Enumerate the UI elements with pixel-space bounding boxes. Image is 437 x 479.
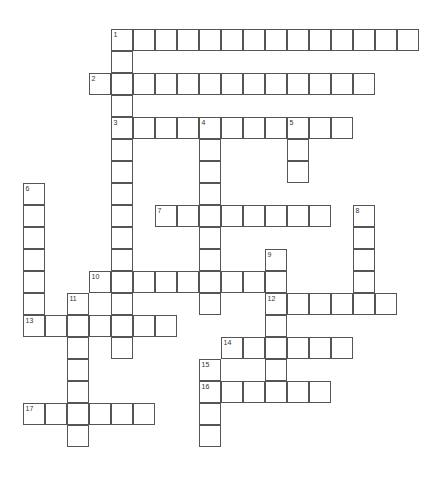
crossword-cell[interactable] <box>243 29 265 51</box>
crossword-cell[interactable] <box>265 117 287 139</box>
crossword-cell[interactable]: 4 <box>199 117 221 139</box>
crossword-cell[interactable] <box>265 29 287 51</box>
crossword-cell[interactable] <box>353 293 375 315</box>
crossword-cell[interactable] <box>133 403 155 425</box>
crossword-cell[interactable]: 17 <box>23 403 45 425</box>
crossword-cell[interactable] <box>331 337 353 359</box>
crossword-cell[interactable] <box>265 73 287 95</box>
crossword-cell[interactable] <box>331 293 353 315</box>
crossword-cell[interactable]: 9 <box>265 249 287 271</box>
crossword-cell[interactable] <box>353 29 375 51</box>
crossword-cell[interactable] <box>287 293 309 315</box>
crossword-cell[interactable]: 1 <box>111 29 133 51</box>
crossword-cell[interactable] <box>287 337 309 359</box>
crossword-cell[interactable] <box>199 425 221 447</box>
crossword-cell[interactable] <box>287 161 309 183</box>
crossword-cell[interactable] <box>111 249 133 271</box>
crossword-cell[interactable] <box>133 315 155 337</box>
crossword-cell[interactable] <box>111 293 133 315</box>
crossword-cell[interactable] <box>265 271 287 293</box>
crossword-cell[interactable] <box>45 403 67 425</box>
crossword-cell[interactable] <box>397 29 419 51</box>
crossword-cell[interactable] <box>199 29 221 51</box>
crossword-cell[interactable] <box>375 29 397 51</box>
crossword-cell[interactable] <box>287 73 309 95</box>
crossword-cell[interactable] <box>287 139 309 161</box>
crossword-cell[interactable] <box>353 73 375 95</box>
crossword-cell[interactable]: 14 <box>221 337 243 359</box>
crossword-cell[interactable] <box>353 271 375 293</box>
crossword-cell[interactable] <box>265 359 287 381</box>
crossword-cell[interactable] <box>331 73 353 95</box>
crossword-cell[interactable] <box>331 29 353 51</box>
crossword-cell[interactable] <box>199 271 221 293</box>
crossword-cell[interactable] <box>111 271 133 293</box>
crossword-cell[interactable]: 11 <box>67 293 89 315</box>
crossword-cell[interactable] <box>23 205 45 227</box>
crossword-cell[interactable] <box>133 73 155 95</box>
crossword-cell[interactable] <box>177 271 199 293</box>
crossword-cell[interactable] <box>309 205 331 227</box>
crossword-cell[interactable]: 5 <box>287 117 309 139</box>
crossword-cell[interactable]: 15 <box>199 359 221 381</box>
crossword-cell[interactable] <box>155 271 177 293</box>
crossword-cell[interactable] <box>265 205 287 227</box>
crossword-cell[interactable] <box>111 183 133 205</box>
crossword-cell[interactable] <box>287 381 309 403</box>
crossword-cell[interactable] <box>265 337 287 359</box>
crossword-cell[interactable] <box>199 227 221 249</box>
crossword-cell[interactable]: 16 <box>199 381 221 403</box>
crossword-cell[interactable] <box>221 381 243 403</box>
crossword-cell[interactable] <box>111 73 133 95</box>
crossword-cell[interactable] <box>221 29 243 51</box>
crossword-cell[interactable] <box>243 117 265 139</box>
crossword-cell[interactable] <box>199 183 221 205</box>
crossword-cell[interactable] <box>177 29 199 51</box>
crossword-cell[interactable] <box>111 51 133 73</box>
crossword-cell[interactable] <box>221 205 243 227</box>
crossword-cell[interactable] <box>111 315 133 337</box>
crossword-cell[interactable] <box>155 29 177 51</box>
crossword-cell[interactable] <box>221 271 243 293</box>
crossword-cell[interactable] <box>67 403 89 425</box>
crossword-cell[interactable] <box>23 227 45 249</box>
crossword-cell[interactable] <box>67 425 89 447</box>
crossword-cell[interactable] <box>45 315 67 337</box>
crossword-cell[interactable] <box>221 73 243 95</box>
crossword-cell[interactable] <box>309 73 331 95</box>
crossword-cell[interactable]: 6 <box>23 183 45 205</box>
crossword-cell[interactable] <box>199 73 221 95</box>
crossword-cell[interactable] <box>133 117 155 139</box>
crossword-cell[interactable] <box>133 29 155 51</box>
crossword-cell[interactable] <box>111 403 133 425</box>
crossword-cell[interactable] <box>309 381 331 403</box>
crossword-cell[interactable] <box>309 29 331 51</box>
crossword-cell[interactable] <box>309 293 331 315</box>
crossword-cell[interactable] <box>111 95 133 117</box>
crossword-cell[interactable] <box>265 381 287 403</box>
crossword-cell[interactable] <box>243 73 265 95</box>
crossword-cell[interactable] <box>199 139 221 161</box>
crossword-cell[interactable]: 2 <box>89 73 111 95</box>
crossword-cell[interactable] <box>199 205 221 227</box>
crossword-cell[interactable] <box>155 315 177 337</box>
crossword-cell[interactable] <box>199 403 221 425</box>
crossword-cell[interactable] <box>23 249 45 271</box>
crossword-cell[interactable] <box>177 73 199 95</box>
crossword-cell[interactable] <box>199 293 221 315</box>
crossword-cell[interactable]: 8 <box>353 205 375 227</box>
crossword-cell[interactable] <box>353 249 375 271</box>
crossword-cell[interactable] <box>199 161 221 183</box>
crossword-cell[interactable]: 3 <box>111 117 133 139</box>
crossword-cell[interactable] <box>375 293 397 315</box>
crossword-cell[interactable] <box>111 205 133 227</box>
crossword-cell[interactable] <box>133 271 155 293</box>
crossword-cell[interactable] <box>111 161 133 183</box>
crossword-cell[interactable] <box>23 271 45 293</box>
crossword-cell[interactable] <box>67 359 89 381</box>
crossword-cell[interactable]: 13 <box>23 315 45 337</box>
crossword-cell[interactable] <box>155 117 177 139</box>
crossword-cell[interactable]: 12 <box>265 293 287 315</box>
crossword-cell[interactable] <box>309 117 331 139</box>
crossword-cell[interactable] <box>353 227 375 249</box>
